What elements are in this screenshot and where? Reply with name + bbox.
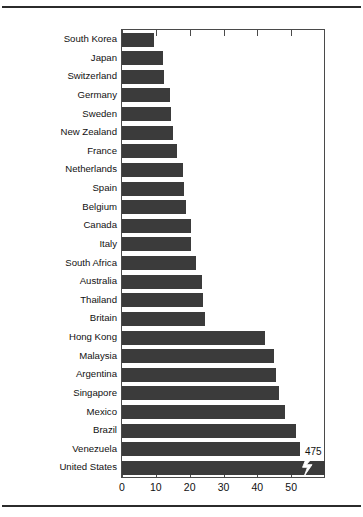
bar-mexico <box>122 405 285 419</box>
category-label-south-africa: South Africa <box>0 254 117 273</box>
bar-united-states <box>122 461 325 475</box>
xtick-label-10: 10 <box>150 481 162 493</box>
bar-france <box>122 144 177 158</box>
category-label-australia: Australia <box>0 272 117 291</box>
bar-italy <box>122 237 191 251</box>
category-label-thailand: Thailand <box>0 291 117 310</box>
xtick-label-0: 0 <box>119 481 125 493</box>
category-label-mexico: Mexico <box>0 403 117 422</box>
page-bottom-rule <box>2 505 361 507</box>
bar-japan <box>122 51 163 65</box>
xtick-label-30: 30 <box>218 481 230 493</box>
category-label-japan: Japan <box>0 49 117 68</box>
bars-layer <box>122 30 325 477</box>
category-label-south-korea: South Korea <box>0 30 117 49</box>
category-label-singapore: Singapore <box>0 384 117 403</box>
category-label-argentina: Argentina <box>0 365 117 384</box>
category-label-brazil: Brazil <box>0 421 117 440</box>
xtick-label-20: 20 <box>184 481 196 493</box>
bar-chart-figure: South KoreaJapanSwitzerlandGermanySweden… <box>0 0 363 517</box>
category-label-hong-kong: Hong Kong <box>0 328 117 347</box>
break-value-label: 475 <box>305 446 322 457</box>
bar-singapore <box>122 386 279 400</box>
category-axis-labels: South KoreaJapanSwitzerlandGermanySweden… <box>0 30 117 477</box>
bar-switzerland <box>122 70 164 84</box>
bar-hong-kong <box>122 331 265 345</box>
bar-spain <box>122 182 184 196</box>
xtick-label-40: 40 <box>251 481 263 493</box>
bar-venezuela <box>122 442 300 456</box>
category-label-new-zealand: New Zealand <box>0 123 117 142</box>
category-label-germany: Germany <box>0 86 117 105</box>
category-label-malaysia: Malaysia <box>0 347 117 366</box>
category-label-spain: Spain <box>0 179 117 198</box>
bar-south-korea <box>122 33 154 47</box>
category-label-venezuela: Venezuela <box>0 440 117 459</box>
bar-argentina <box>122 368 276 382</box>
xtick-label-50: 50 <box>285 481 297 493</box>
value-axis-tick-labels: 01020304050 <box>0 481 363 497</box>
bar-britain <box>122 312 205 326</box>
bar-new-zealand <box>122 126 173 140</box>
bar-malaysia <box>122 349 274 363</box>
bar-belgium <box>122 200 186 214</box>
bar-australia <box>122 275 202 289</box>
bar-canada <box>122 219 191 233</box>
category-label-switzerland: Switzerland <box>0 67 117 86</box>
bar-thailand <box>122 293 203 307</box>
category-label-netherlands: Netherlands <box>0 160 117 179</box>
category-label-britain: Britain <box>0 309 117 328</box>
bar-germany <box>122 88 170 102</box>
bar-south-africa <box>122 256 196 270</box>
category-label-italy: Italy <box>0 235 117 254</box>
category-label-belgium: Belgium <box>0 198 117 217</box>
category-label-united-states: United States <box>0 458 117 477</box>
bar-sweden <box>122 107 171 121</box>
category-label-canada: Canada <box>0 216 117 235</box>
category-label-france: France <box>0 142 117 161</box>
bar-brazil <box>122 424 296 438</box>
bar-netherlands <box>122 163 183 177</box>
category-label-sweden: Sweden <box>0 105 117 124</box>
